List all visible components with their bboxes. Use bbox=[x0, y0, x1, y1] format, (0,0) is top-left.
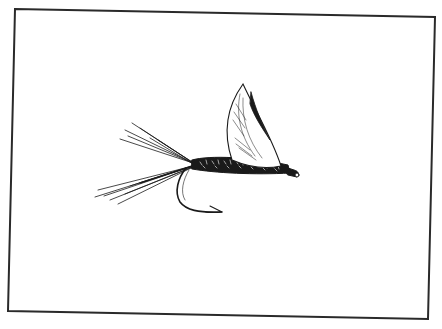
illustration-canvas bbox=[0, 0, 442, 329]
hook-barb bbox=[206, 206, 222, 212]
caption-text bbox=[150, 318, 270, 328]
tail-fibers-upper bbox=[120, 123, 193, 164]
hook-eye-icon bbox=[295, 173, 299, 177]
hook-icon bbox=[177, 168, 222, 212]
dry-fly-drawing bbox=[95, 84, 299, 212]
